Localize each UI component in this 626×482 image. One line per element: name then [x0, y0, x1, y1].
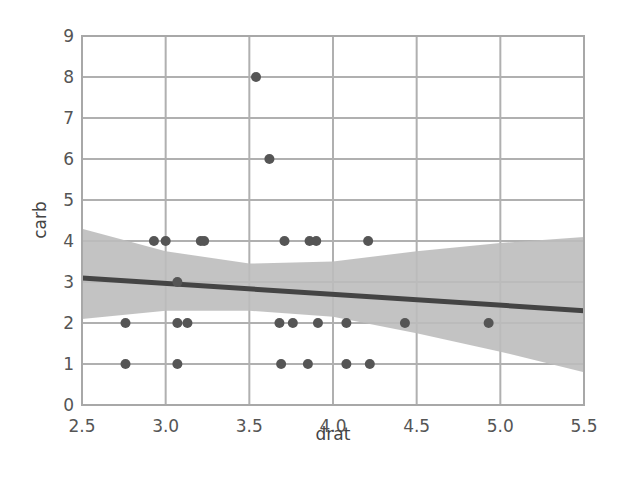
data-point	[172, 359, 182, 369]
y-tick-label: 7	[63, 108, 74, 128]
x-tick-label: 3.5	[236, 416, 263, 436]
x-tick-label: 4.5	[403, 416, 430, 436]
y-tick-label: 3	[63, 272, 74, 292]
y-axis-ticks: 0123456789	[63, 26, 74, 415]
data-point	[182, 318, 192, 328]
scatter-chart: 2.53.03.54.04.55.05.5 0123456789 drat ca…	[0, 0, 626, 482]
data-point	[341, 359, 351, 369]
x-tick-label: 2.5	[68, 416, 95, 436]
y-tick-label: 2	[63, 313, 74, 333]
y-tick-label: 8	[63, 67, 74, 87]
data-point	[313, 318, 323, 328]
data-point	[149, 236, 159, 246]
y-tick-label: 4	[63, 231, 74, 251]
data-point	[484, 318, 494, 328]
y-tick-label: 0	[63, 395, 74, 415]
data-point	[279, 236, 289, 246]
data-point	[363, 236, 373, 246]
data-point	[251, 72, 261, 82]
y-tick-label: 9	[63, 26, 74, 46]
data-point	[400, 318, 410, 328]
x-tick-label: 5.0	[487, 416, 514, 436]
data-point	[172, 318, 182, 328]
data-point	[199, 236, 209, 246]
data-point	[121, 318, 131, 328]
y-tick-label: 5	[63, 190, 74, 210]
data-point	[274, 318, 284, 328]
x-tick-label: 3.0	[152, 416, 179, 436]
data-point	[172, 277, 182, 287]
data-point	[161, 236, 171, 246]
data-point	[264, 154, 274, 164]
data-point	[121, 359, 131, 369]
x-axis-label: drat	[316, 424, 351, 444]
data-point	[288, 318, 298, 328]
data-point	[341, 318, 351, 328]
data-point	[311, 236, 321, 246]
data-point	[303, 359, 313, 369]
y-axis-label: carb	[30, 201, 50, 239]
x-tick-label: 5.5	[570, 416, 597, 436]
y-tick-label: 6	[63, 149, 74, 169]
y-tick-label: 1	[63, 354, 74, 374]
data-point	[276, 359, 286, 369]
data-point	[365, 359, 375, 369]
